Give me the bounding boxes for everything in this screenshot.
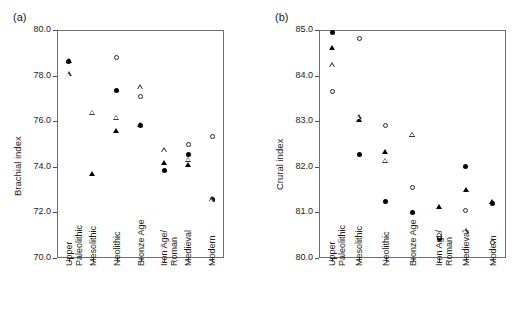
data-point-filled-triangle (66, 58, 72, 63)
data-point-open-circle (330, 89, 335, 94)
y-axis-tick (53, 167, 57, 168)
y-axis-tick-label: 83.0 (275, 115, 313, 125)
data-point-filled-circle (410, 210, 415, 215)
data-point-filled-triangle (489, 199, 495, 204)
data-point-open-triangle (463, 228, 469, 233)
x-axis-category-label: Neolithic (381, 231, 391, 266)
y-axis-tick-label: 72.0 (13, 206, 51, 216)
y-axis-tick (315, 258, 319, 259)
y-axis-tick-label: 80.0 (13, 24, 51, 34)
data-point-filled-circle (383, 199, 388, 204)
data-point-open-triangle (113, 115, 119, 120)
data-point-open-circle (357, 36, 362, 41)
data-point-filled-triangle (329, 45, 335, 50)
data-point-open-circle (410, 185, 415, 190)
x-axis-category-label: Medieval (183, 230, 193, 266)
data-point-open-triangle (161, 147, 167, 152)
data-point-open-circle (138, 94, 143, 99)
x-axis-category-label: Neolithic (112, 231, 122, 266)
y-axis-tick (315, 121, 319, 122)
data-point-open-triangle (436, 232, 442, 237)
y-axis-tick (315, 212, 319, 213)
data-point-filled-triangle (185, 162, 191, 167)
y-axis-tick-label: 74.0 (13, 161, 51, 171)
figure-scatter-panels: (a) Brachial index 70.072.074.076.078.08… (0, 0, 524, 334)
x-axis-category-label: Bronze Age (408, 219, 418, 266)
data-point-open-triangle (89, 110, 95, 115)
panel-b: (b) Crural index 80.081.082.083.084.085.… (262, 0, 524, 334)
data-point-open-triangle (382, 158, 388, 163)
y-axis-tick (53, 212, 57, 213)
panel-b-label: (b) (275, 11, 288, 23)
y-axis-tick (315, 167, 319, 168)
y-axis-tick-label: 70.0 (13, 252, 51, 262)
data-point-open-triangle (66, 71, 72, 76)
panel-a: (a) Brachial index 70.072.074.076.078.08… (0, 0, 262, 334)
data-point-open-circle (210, 134, 215, 139)
y-axis-tick-label: 82.0 (275, 161, 313, 171)
data-point-open-triangle (185, 157, 191, 162)
y-axis-tick-label: 85.0 (275, 24, 313, 34)
data-point-filled-triangle (89, 171, 95, 176)
x-axis-category-label: UpperPaleolithic (327, 225, 347, 266)
data-point-filled-triangle (137, 122, 143, 127)
data-point-open-triangle (356, 114, 362, 119)
panel-a-label: (a) (13, 11, 26, 23)
data-point-filled-triangle (161, 160, 167, 165)
x-axis-category-label: Iron Age/Roman (159, 230, 179, 266)
data-point-open-circle (114, 55, 119, 60)
y-axis-tick-label: 81.0 (275, 206, 313, 216)
y-axis-tick (315, 30, 319, 31)
data-point-open-circle (186, 142, 191, 147)
data-point-filled-triangle (463, 187, 469, 192)
y-axis-tick-label: 84.0 (275, 70, 313, 80)
data-point-open-triangle (329, 62, 335, 67)
data-point-open-triangle (137, 84, 143, 89)
y-axis-tick (53, 76, 57, 77)
x-axis-category-label: Mesolithic (354, 226, 364, 266)
y-axis-tick (53, 121, 57, 122)
data-point-filled-circle (330, 30, 335, 35)
data-point-filled-triangle (436, 204, 442, 209)
x-axis-category-label: UpperPaleolithic (64, 225, 84, 266)
y-axis-tick (315, 76, 319, 77)
data-point-filled-circle (357, 152, 362, 157)
x-axis-category-label: Mesolithic (88, 226, 98, 266)
x-axis-category-label: Modern (207, 235, 217, 266)
data-point-filled-triangle (382, 149, 388, 154)
y-axis-tick-label: 78.0 (13, 70, 51, 80)
x-axis-category-label: Medieval (461, 230, 471, 266)
data-point-open-triangle (409, 132, 415, 137)
data-point-filled-triangle (113, 128, 119, 133)
x-axis-category-label: Bronze Age (136, 219, 146, 266)
y-axis-tick (53, 30, 57, 31)
y-axis-tick-label: 80.0 (275, 252, 313, 262)
data-point-open-triangle (209, 197, 215, 202)
y-axis-tick-label: 76.0 (13, 115, 51, 125)
data-point-filled-circle (162, 168, 167, 173)
y-axis-tick (53, 258, 57, 259)
